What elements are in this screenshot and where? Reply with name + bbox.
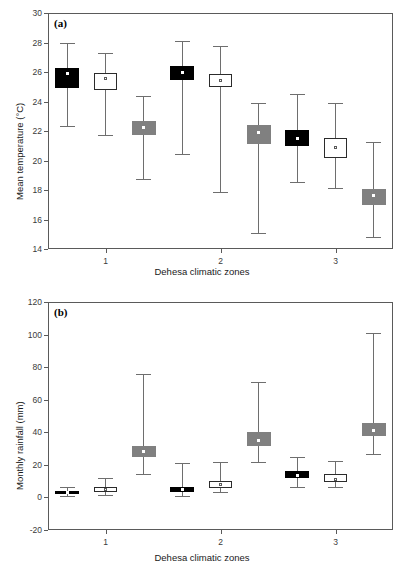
box-plot xyxy=(247,103,271,234)
y-tick-label: 120 xyxy=(16,297,42,307)
x-tick-mark xyxy=(221,530,222,534)
whisker-cap-upper xyxy=(213,46,228,47)
whisker-cap-upper xyxy=(60,43,75,44)
whisker-line xyxy=(220,46,221,193)
whisker-cap-lower xyxy=(290,487,305,488)
whisker-cap-upper xyxy=(290,94,305,95)
whisker-cap-upper xyxy=(366,142,381,143)
x-tick-label: 3 xyxy=(321,537,351,547)
x-axis-label: Dehesa climatic zones xyxy=(0,266,404,277)
whisker-line xyxy=(258,382,259,463)
mean-marker xyxy=(372,194,375,197)
whisker-cap-lower xyxy=(136,179,151,180)
box-iqr xyxy=(94,73,118,90)
mean-marker xyxy=(372,429,375,432)
whisker-cap-lower xyxy=(366,454,381,455)
mean-marker xyxy=(142,126,145,129)
whisker-cap-lower xyxy=(213,192,228,193)
whisker-line xyxy=(143,374,144,475)
box-plot xyxy=(285,94,309,183)
x-axis-label: Dehesa climatic zones xyxy=(0,552,404,563)
whisker-cap-upper xyxy=(175,463,190,464)
y-tick-label: 28 xyxy=(16,38,42,48)
whisker-cap-lower xyxy=(175,154,190,155)
x-tick-label: 2 xyxy=(206,256,236,266)
y-tick-mark xyxy=(44,249,48,250)
y-tick-mark xyxy=(44,190,48,191)
y-tick-label: 100 xyxy=(16,330,42,340)
y-tick-mark xyxy=(44,497,48,498)
whisker-line xyxy=(373,333,374,455)
whisker-line xyxy=(182,463,183,497)
whisker-cap-upper xyxy=(328,103,343,104)
mean-marker xyxy=(334,478,337,481)
mean-marker xyxy=(219,79,222,82)
box-plot xyxy=(324,103,348,189)
box-plot xyxy=(362,142,386,238)
whisker-cap-upper xyxy=(251,103,266,104)
box-plot xyxy=(209,46,233,193)
mean-marker xyxy=(142,450,145,453)
y-tick-label: 26 xyxy=(16,67,42,77)
mean-marker xyxy=(104,488,107,491)
y-tick-mark xyxy=(44,400,48,401)
y-tick-mark xyxy=(44,13,48,14)
y-tick-mark xyxy=(44,335,48,336)
y-tick-mark xyxy=(44,302,48,303)
y-tick-mark xyxy=(44,43,48,44)
box-plot xyxy=(362,333,386,455)
whisker-cap-upper xyxy=(290,457,305,458)
mean-marker xyxy=(219,483,222,486)
y-tick-mark xyxy=(44,465,48,466)
whisker-cap-lower xyxy=(251,462,266,463)
x-tick-mark xyxy=(336,249,337,253)
panel-label: (b) xyxy=(54,306,67,318)
y-tick-label: 80 xyxy=(16,362,42,372)
mean-marker xyxy=(296,474,299,477)
whisker-cap-upper xyxy=(60,487,75,488)
y-tick-mark xyxy=(44,432,48,433)
y-tick-mark xyxy=(44,530,48,531)
whisker-cap-lower xyxy=(98,135,113,136)
x-tick-label: 3 xyxy=(321,256,351,266)
x-tick-label: 2 xyxy=(206,537,236,547)
figure-box-plots: 141618202224262830123Dehesa climatic zon… xyxy=(0,0,404,583)
box-plot xyxy=(285,457,309,488)
box-plot xyxy=(170,463,194,497)
y-axis-label: Mean temperature (°C) xyxy=(14,103,25,200)
box-plot xyxy=(55,43,79,127)
y-tick-label: 0 xyxy=(16,492,42,502)
whisker-cap-lower xyxy=(290,182,305,183)
whisker-cap-upper xyxy=(136,374,151,375)
whisker-cap-lower xyxy=(213,492,228,493)
y-tick-mark xyxy=(44,131,48,132)
mean-marker xyxy=(296,137,299,140)
panel-a: 141618202224262830123Dehesa climatic zon… xyxy=(0,0,404,290)
y-axis-label: Monthly rainfall (mm) xyxy=(14,401,25,490)
x-tick-label: 1 xyxy=(91,537,121,547)
whisker-cap-lower xyxy=(328,188,343,189)
whisker-line xyxy=(182,41,183,155)
y-tick-label: -20 xyxy=(16,525,42,535)
y-tick-mark xyxy=(44,367,48,368)
whisker-cap-upper xyxy=(136,96,151,97)
whisker-line xyxy=(105,53,106,136)
mean-marker xyxy=(257,439,260,442)
box-plot xyxy=(209,462,233,493)
box-plot xyxy=(132,374,156,475)
whisker-cap-upper xyxy=(98,53,113,54)
box-plot xyxy=(94,53,118,136)
box-iqr xyxy=(247,125,271,144)
whisker-cap-lower xyxy=(175,496,190,497)
whisker-cap-lower xyxy=(251,233,266,234)
whisker-line xyxy=(220,462,221,493)
box-plot xyxy=(55,487,79,497)
y-tick-label: 14 xyxy=(16,244,42,254)
x-tick-mark xyxy=(106,530,107,534)
plot-area-b xyxy=(48,302,393,530)
box-plot xyxy=(132,96,156,180)
whisker-cap-lower xyxy=(136,474,151,475)
mean-marker xyxy=(334,146,337,149)
y-tick-mark xyxy=(44,102,48,103)
x-tick-label: 1 xyxy=(91,256,121,266)
